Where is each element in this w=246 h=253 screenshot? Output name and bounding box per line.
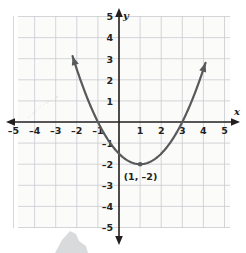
- vertex-point-label: (1, –2): [124, 171, 158, 182]
- y-tick-label: –5: [102, 222, 113, 233]
- x-tick-label: –4: [29, 125, 41, 136]
- page-smudge-shape: [55, 231, 88, 253]
- x-tick-label: 5: [221, 125, 228, 136]
- y-tick-label: –3: [102, 180, 113, 191]
- x-tick-label: –2: [71, 125, 82, 136]
- x-tick-label: 4: [200, 125, 207, 136]
- y-axis-top-arrow: [115, 8, 123, 17]
- y-tick-label: –2: [102, 159, 113, 170]
- y-tick-label: 2: [106, 75, 113, 86]
- coordinate-plane-svg: x y –5 –4 –3 –2 –1 1 2 3 4 5 5 4 3 2 1 –…: [0, 0, 246, 253]
- x-tick-label: –3: [50, 125, 61, 136]
- x-axis-label: x: [233, 106, 241, 117]
- x-tick-label: 2: [158, 125, 165, 136]
- y-tick-label: –4: [102, 201, 114, 212]
- graph-figure: x y –5 –4 –3 –2 –1 1 2 3 4 5 5 4 3 2 1 –…: [0, 0, 246, 253]
- y-tick-label: 4: [106, 32, 113, 43]
- y-tick-label: 1: [106, 96, 113, 107]
- vertex-point-marker: [138, 162, 143, 167]
- y-axis-bottom-arrow: [115, 236, 123, 245]
- y-tick-label: 5: [106, 11, 113, 22]
- x-axis-right-arrow: [231, 118, 240, 126]
- x-tick-label: –5: [8, 125, 19, 136]
- y-tick-label: 3: [106, 54, 113, 65]
- y-axis-label: y: [122, 10, 130, 21]
- x-tick-label: 1: [137, 125, 144, 136]
